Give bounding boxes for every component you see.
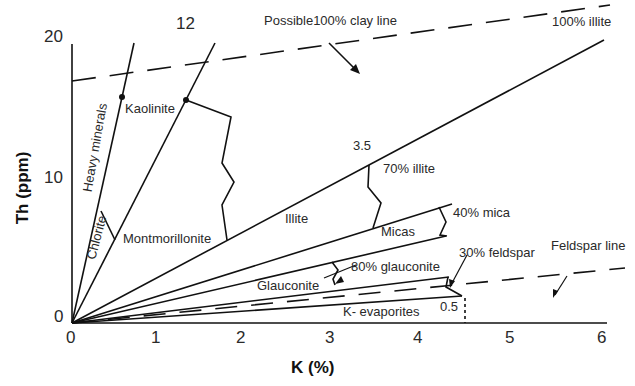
- y-tick-0: 0: [54, 307, 63, 327]
- label-montmorillonite: Montmorillonite: [123, 231, 211, 246]
- label-12: 12: [176, 14, 195, 34]
- kaolinite-montmorillonite-boundary: [186, 100, 234, 240]
- x-tick-0: 0: [66, 328, 75, 348]
- label-micas: Micas: [381, 224, 415, 239]
- x-tick-6: 6: [597, 328, 606, 348]
- label-feldspar-30: 30% feldspar: [459, 245, 535, 260]
- label-illite: Illite: [285, 211, 308, 226]
- label-illite-100: 100% illite: [552, 14, 611, 29]
- x-tick-1: 1: [151, 328, 160, 348]
- mica-40-boundary: [439, 207, 447, 236]
- y-tick-20: 20: [44, 27, 63, 47]
- x-tick-3: 3: [325, 328, 334, 348]
- label-glauconite-80: 80% glauconite: [351, 259, 440, 274]
- x-tick-5: 5: [505, 328, 514, 348]
- kaolinite-marker-1: [119, 94, 125, 100]
- x-axis-title: K (%): [291, 358, 334, 378]
- label-kaolinite: Kaolinite: [125, 101, 175, 116]
- clay-line-arrow: [329, 43, 356, 70]
- label-clay-line: Possible100% clay line: [264, 13, 397, 28]
- label-0-5: 0.5: [440, 299, 458, 314]
- y-tick-10: 10: [44, 168, 63, 188]
- x-tick-2: 2: [236, 328, 245, 348]
- label-illite-70: 70% illite: [383, 161, 435, 176]
- x-tick-4: 4: [413, 328, 422, 348]
- glauconite-arrowhead: [335, 276, 344, 284]
- kaolinite-marker-2: [183, 97, 189, 103]
- chart-plot-area: [0, 0, 635, 386]
- label-feldspar-line: Feldspar line: [551, 238, 625, 253]
- y-axis-title: Th (ppm): [13, 143, 33, 233]
- label-mica-40: 40% mica: [453, 205, 510, 220]
- label-glauconite: Glauconite: [257, 278, 319, 293]
- label-3-5: 3.5: [353, 138, 371, 153]
- illite-70-boundary: [368, 165, 381, 228]
- label-k-evaporites: K- evaporites: [343, 304, 420, 319]
